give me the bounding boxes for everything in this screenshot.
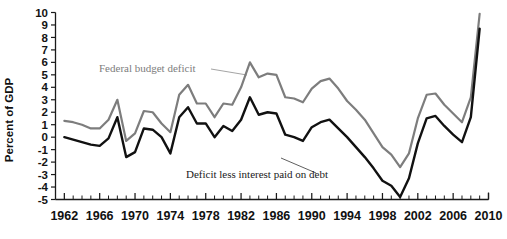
y-axis-tick-label: 9 <box>42 19 48 31</box>
x-axis-tick-label: 1978 <box>192 209 220 223</box>
x-axis-tick-label: 1990 <box>298 209 326 223</box>
y-axis-tick-label: 8 <box>42 32 49 44</box>
y-axis-tick-label: 1 <box>42 119 49 131</box>
y-axis-title: Percent of GDP <box>3 77 15 162</box>
y-axis-tick-label: 0 <box>42 131 48 143</box>
y-axis-tick-label: 6 <box>42 56 48 68</box>
y-axis-tick-label: 5 <box>42 69 49 81</box>
y-axis-tick-label: -4 <box>38 181 49 193</box>
x-axis-tick-label: 1970 <box>121 209 149 223</box>
y-axis-tick-label: 10 <box>35 7 48 19</box>
y-axis-tick-label: 7 <box>42 44 48 56</box>
x-axis-tick-label: 1966 <box>86 209 114 223</box>
plot-background <box>0 0 507 239</box>
annotation-label-federal-budget-deficit: Federal budget deficit <box>99 62 196 74</box>
y-axis-tick-label: 2 <box>42 106 48 118</box>
x-axis-tick-label: 2010 <box>475 209 503 223</box>
line-chart: 109876543210-1-2-3-4-5 19621966197019741… <box>0 0 507 239</box>
x-axis-tick-label: 1974 <box>156 209 184 223</box>
y-axis-tick-label: 4 <box>42 81 49 93</box>
chart-container: 109876543210-1-2-3-4-5 19621966197019741… <box>0 0 507 239</box>
x-axis-tick-label: 1962 <box>50 209 78 223</box>
x-axis-tick-label: 1994 <box>333 209 361 223</box>
y-axis-title-group: Percent of GDP <box>3 77 15 162</box>
x-axis-tick-label: 2006 <box>439 209 467 223</box>
x-axis-tick-label: 1982 <box>227 209 255 223</box>
y-axis-tick-label: -2 <box>38 156 48 168</box>
x-axis-tick-label: 2002 <box>404 209 432 223</box>
y-axis-tick-label: -3 <box>38 169 48 181</box>
y-axis-tick-label: -1 <box>38 144 49 156</box>
annotation-label-deficit-less-interest: Deficit less interest paid on debt <box>186 168 328 180</box>
x-axis-tick-label: 1986 <box>263 209 291 223</box>
y-axis-tick-label: -5 <box>38 194 49 206</box>
y-axis-tick-label: 3 <box>42 94 48 106</box>
x-axis-tick-label: 1998 <box>369 209 397 223</box>
